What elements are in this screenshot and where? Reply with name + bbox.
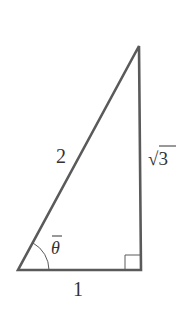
triangle [18,46,141,270]
right-angle-marker [125,255,141,270]
angle-label: θ [51,238,60,258]
angle-arc [33,243,49,270]
triangle-diagram: 2 √3 θ 1 [0,0,193,309]
base-label: 1 [73,278,83,300]
vertical-side-label: √3 [148,148,168,169]
hypotenuse-label: 2 [56,145,66,167]
